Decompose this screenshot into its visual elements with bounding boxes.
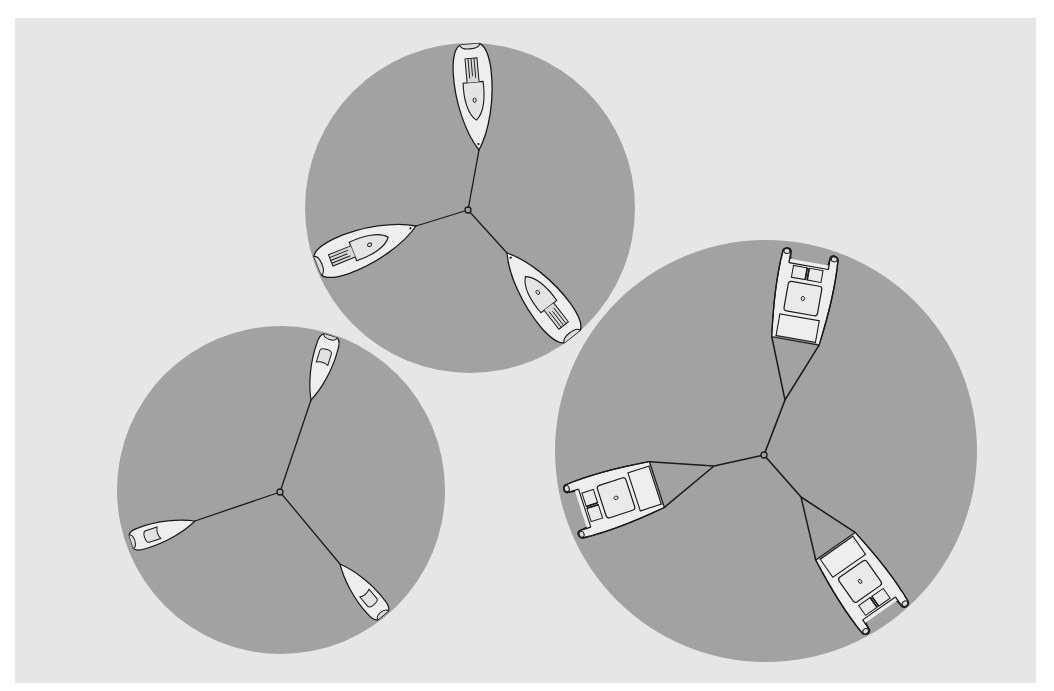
mooring-diagram <box>0 0 1054 691</box>
mooring-swivel-icon <box>465 207 471 213</box>
mooring-swivel-icon <box>761 452 767 458</box>
mooring-swivel-icon <box>277 489 283 495</box>
